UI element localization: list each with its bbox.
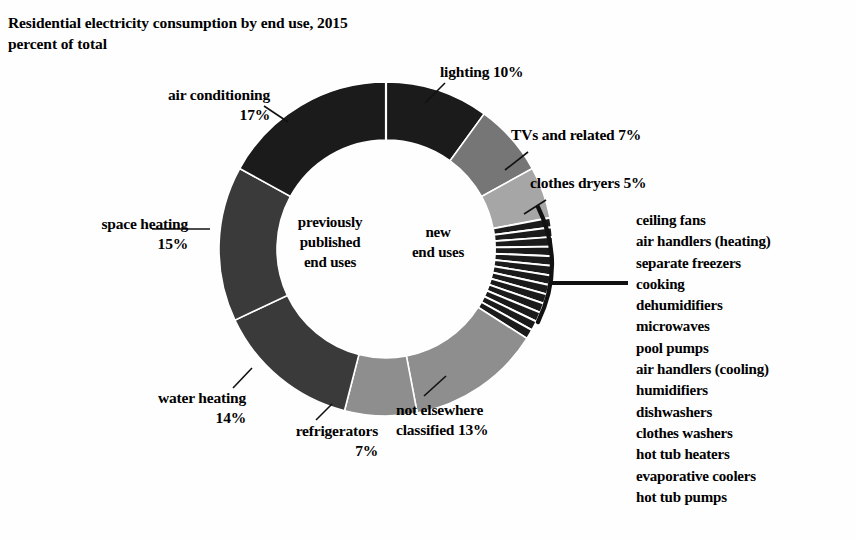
leader-water-heating xyxy=(233,368,252,388)
detail-list-item: separate freezers xyxy=(636,253,852,274)
center-new-line-2: end uses xyxy=(392,242,484,262)
detail-list-item: air handlers (heating) xyxy=(636,231,852,252)
detail-list: ceiling fansair handlers (heating)separa… xyxy=(636,210,852,508)
label-nec-line-1: not elsewhere xyxy=(396,400,576,420)
detail-list-item: dehumidifiers xyxy=(636,295,852,316)
detail-list-item: humidifiers xyxy=(636,380,852,401)
leader-refrigerators xyxy=(316,404,332,420)
center-prev-line-2: published xyxy=(269,232,391,252)
detail-list-item: evaporative coolers xyxy=(636,466,852,487)
label-water-heating-value: 14% xyxy=(96,408,246,428)
label-tvs-text: TVs and related 7% xyxy=(511,125,721,145)
donut-segment-water-heating xyxy=(235,295,359,410)
label-space-heating-value: 15% xyxy=(28,234,188,254)
center-label-new-end-uses: new end uses xyxy=(392,222,484,262)
label-air-conditioning: air conditioning 17% xyxy=(100,85,270,125)
detail-list-item: hot tub pumps xyxy=(636,487,852,508)
detail-list-item: clothes washers xyxy=(636,423,852,444)
detail-list-item: hot tub heaters xyxy=(636,444,852,465)
label-space-heating: space heating 15% xyxy=(28,214,188,254)
label-water-heating-name: water heating xyxy=(96,388,246,408)
label-space-heating-name: space heating xyxy=(28,214,188,234)
center-new-line-1: new xyxy=(392,222,484,242)
label-clothes-dryers: clothes dryers 5% xyxy=(530,173,740,193)
label-nec-line-2: classified 13% xyxy=(396,420,576,440)
center-prev-line-3: end uses xyxy=(269,252,391,272)
label-refrigerators-name: refrigerators xyxy=(228,421,378,441)
label-clothes-dryers-text: clothes dryers 5% xyxy=(530,173,740,193)
detail-list-item: pool pumps xyxy=(636,338,852,359)
label-water-heating: water heating 14% xyxy=(96,388,246,428)
label-not-elsewhere-classified: not elsewhere classified 13% xyxy=(396,400,576,440)
detail-list-item: dishwashers xyxy=(636,402,852,423)
label-lighting: lighting 10% xyxy=(440,62,610,82)
detail-list-item: microwaves xyxy=(636,316,852,337)
detail-list-item: ceiling fans xyxy=(636,210,852,231)
label-refrigerators: refrigerators 7% xyxy=(228,421,378,461)
label-refrigerators-value: 7% xyxy=(228,441,378,461)
label-tvs-and-related: TVs and related 7% xyxy=(511,125,721,145)
label-air-conditioning-name: air conditioning xyxy=(100,85,270,105)
label-lighting-text: lighting 10% xyxy=(440,62,610,82)
detail-list-item: cooking xyxy=(636,274,852,295)
chart-page: Residential electricity consumption by e… xyxy=(0,0,856,542)
center-prev-line-1: previously xyxy=(269,212,391,232)
center-label-previously-published: previously published end uses xyxy=(269,212,391,272)
detail-list-item: air handlers (cooling) xyxy=(636,359,852,380)
label-air-conditioning-value: 17% xyxy=(100,105,270,125)
